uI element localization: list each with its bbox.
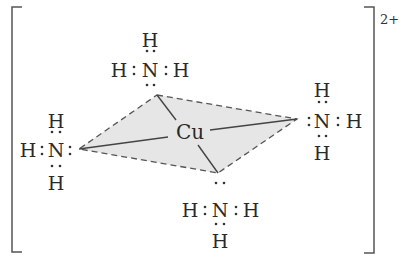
hydrogen-atom: H: [182, 199, 199, 221]
hydrogen-atom: H: [314, 142, 331, 164]
hydrogen-atom: H: [173, 59, 190, 81]
right-bracket: [364, 7, 374, 253]
hydrogen-atom: H: [243, 199, 260, 221]
nitrogen-atom: N: [212, 199, 229, 221]
hydrogen-atom: H: [212, 230, 229, 252]
ammonia-ligand-right: H N H H: [308, 79, 363, 164]
hydrogen-atom: H: [48, 110, 65, 132]
left-bracket: [12, 7, 22, 252]
hydrogen-atom: H: [142, 29, 159, 51]
ion-charge: 2+: [380, 12, 399, 27]
hydrogen-atom: H: [111, 59, 128, 81]
ammonia-ligand-bottom: H N H H: [182, 182, 260, 252]
ammonia-ligand-top: H H N H: [111, 29, 190, 86]
nitrogen-atom: N: [142, 59, 159, 81]
hydrogen-atom: H: [48, 172, 65, 194]
hydrogen-atom: H: [346, 110, 363, 132]
copper-atom: Cu: [176, 120, 204, 144]
complex-ion-diagram: Cu 2+ H H N H H N H H H H N H: [0, 0, 405, 268]
hydrogen-atom: H: [314, 79, 331, 101]
nitrogen-atom: N: [48, 139, 65, 161]
hydrogen-atom: H: [20, 139, 37, 161]
nitrogen-atom: N: [314, 110, 331, 132]
ammonia-ligand-left: H H N H: [20, 110, 72, 194]
